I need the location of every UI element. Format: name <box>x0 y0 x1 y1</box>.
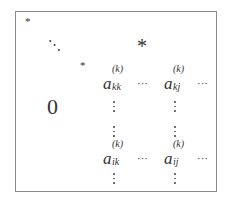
entry-sub: ik <box>112 157 119 167</box>
diagonal-dots: ⋱ <box>48 38 61 51</box>
row-k-hdots-2: ··· <box>197 78 208 89</box>
row-k-hdots-1: ··· <box>137 78 148 89</box>
entry-sub: kj <box>173 82 180 92</box>
entry-sub: ij <box>173 157 179 167</box>
row-i-hdots-2: ··· <box>197 153 208 164</box>
diagonal-star-top: * <box>25 16 31 27</box>
row-i-hdots-1: ··· <box>137 153 148 164</box>
col-k-vdots-upper <box>113 101 115 115</box>
lower-zero-block: 0 <box>47 96 58 118</box>
entry-a-kj: a (k) kj <box>164 75 173 92</box>
entry-base: a <box>103 74 112 93</box>
entry-a-ik: a (k) ik <box>103 150 112 167</box>
entry-base: a <box>103 149 112 168</box>
entry-a-ij: a (k) ij <box>164 150 173 167</box>
upper-block-star: * <box>137 36 147 56</box>
diagonal-star-bottom: * <box>80 60 86 71</box>
entry-sub: kk <box>112 82 121 92</box>
entry-sup: (k) <box>173 64 184 74</box>
entry-sup: (k) <box>112 64 123 74</box>
entry-sup: (k) <box>173 139 184 149</box>
entry-sup: (k) <box>112 139 123 149</box>
entry-base: a <box>164 149 173 168</box>
entry-a-kk: a (k) kk <box>103 75 112 92</box>
col-k-vdots-lower <box>113 173 115 187</box>
entry-base: a <box>164 74 173 93</box>
col-j-vdots-lower <box>174 173 176 187</box>
col-j-vdots-upper <box>174 101 176 115</box>
